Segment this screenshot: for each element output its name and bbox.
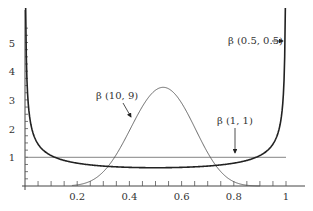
beta-distribution-chart: 0.20.40.60.8112345 β (0.5, 0.5)β (10, 9)… xyxy=(0,0,313,211)
x-tick-label: 0.6 xyxy=(174,191,190,202)
annotation-beta-10-9: β (10, 9) xyxy=(96,90,138,101)
annotation-beta-1-1: β (1, 1) xyxy=(217,115,253,126)
x-tick-label: 0.8 xyxy=(226,191,242,202)
y-tick-label: 1 xyxy=(9,152,15,163)
y-tick-label: 4 xyxy=(9,66,15,77)
y-tick-label: 3 xyxy=(9,95,15,106)
annotation-beta-half-half: β (0.5, 0.5) xyxy=(228,35,283,46)
y-tick-label: 2 xyxy=(9,124,15,135)
annotations: β (0.5, 0.5)β (10, 9)β (1, 1) xyxy=(96,35,283,153)
arrow-beta-10-9 xyxy=(123,103,131,117)
x-tick-label: 0.2 xyxy=(69,191,85,202)
curve-beta-half-half xyxy=(26,8,286,168)
x-tick-label: 0.4 xyxy=(121,191,137,202)
x-tick-label: 1 xyxy=(283,191,289,202)
curve-beta-10-9 xyxy=(72,87,260,186)
y-tick-label: 5 xyxy=(9,38,15,49)
